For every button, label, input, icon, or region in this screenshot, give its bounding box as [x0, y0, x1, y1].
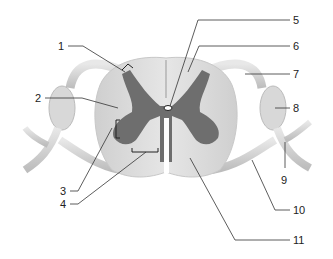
label-4: 4	[60, 198, 66, 210]
label-2: 2	[35, 92, 41, 104]
label-11: 11	[293, 234, 304, 246]
central-canal	[164, 106, 172, 111]
label-1: 1	[58, 40, 64, 52]
label-7: 7	[293, 68, 299, 80]
label-5: 5	[293, 14, 299, 26]
label-9: 9	[281, 174, 287, 186]
spinal-cord-diagram: 1 2 3 4 5 6 7 8 9 10 11	[0, 0, 333, 259]
label-6: 6	[293, 40, 299, 52]
label-8: 8	[293, 102, 299, 114]
label-3: 3	[60, 185, 66, 197]
label-10: 10	[293, 204, 305, 216]
